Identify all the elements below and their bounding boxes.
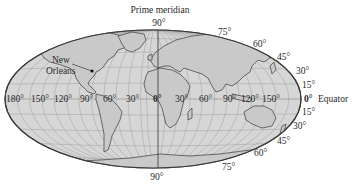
longitude-label: 30°	[175, 94, 188, 104]
longitude-label: 120°	[241, 94, 259, 104]
prime-meridian-title: Prime meridian	[131, 5, 190, 15]
longitude-label: 120°	[54, 94, 72, 104]
longitude-label: 180°	[6, 94, 24, 104]
south-pole-label: 90°	[150, 172, 163, 182]
new-orleans-marker	[90, 69, 93, 72]
latitude-label-south: 60°	[254, 148, 267, 158]
north-pole-label: 90°	[152, 18, 165, 28]
latitude-label-south: 30°	[293, 121, 306, 131]
latitude-label-north: 75°	[218, 27, 231, 37]
longitude-label: 150°	[31, 94, 49, 104]
latitude-label-south: 45°	[277, 136, 290, 146]
longitude-label: 60°	[103, 94, 116, 104]
city-label-new: New	[52, 55, 70, 65]
longitude-label: 90°	[80, 94, 93, 104]
longitude-label: 60°	[199, 94, 212, 104]
city-label-orleans: Orleans	[46, 66, 76, 76]
equator-label: Equator	[318, 94, 348, 104]
longitude-label: 0°	[153, 94, 162, 104]
longitude-label: 30°	[126, 94, 139, 104]
latitude-label-south: 75°	[222, 162, 235, 172]
longitude-label: 150°	[262, 94, 280, 104]
equator-zero-label: 0°	[304, 94, 313, 104]
latitude-label-north: 30°	[296, 66, 309, 76]
latitude-label-north: 15°	[302, 80, 315, 90]
latitude-label-south: 15°	[302, 107, 315, 117]
longitude-label: 90°	[223, 94, 236, 104]
latitude-label-north: 60°	[253, 39, 266, 49]
latitude-label-north: 45°	[277, 52, 290, 62]
